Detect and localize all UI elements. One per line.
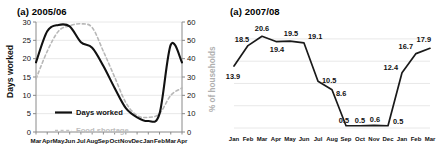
figure-container: (a) 2005/06 051015202530 0102030405060 M…: [0, 0, 445, 158]
svg-text:0.6: 0.6: [370, 115, 380, 124]
legend-left: Days worked Food shortage: [55, 108, 129, 135]
svg-text:Sep: Sep: [340, 136, 351, 142]
svg-text:Mar: Mar: [257, 136, 268, 142]
svg-text:30: 30: [23, 18, 31, 27]
legend-label-days-worked: Days worked: [76, 108, 123, 117]
y-axis-title-left: Days worked: [5, 45, 15, 98]
svg-text:19.1: 19.1: [308, 32, 322, 41]
svg-text:0: 0: [27, 128, 31, 137]
y-axis-ticks-left: 051015202530: [23, 18, 36, 137]
svg-text:50: 50: [187, 36, 195, 45]
svg-text:Apr: Apr: [177, 137, 188, 144]
svg-text:10: 10: [187, 109, 195, 118]
svg-text:Jan: Jan: [143, 137, 154, 144]
x-axis-months-right: JanFebMarAprMayJunJulAugSepOctNovDecJanF…: [229, 136, 436, 142]
svg-text:Jul: Jul: [314, 136, 323, 142]
svg-text:17.9: 17.9: [417, 35, 431, 44]
y2-axis-title-left: % of households: [208, 46, 217, 112]
svg-text:Mar: Mar: [165, 137, 177, 144]
svg-text:Jun: Jun: [64, 137, 75, 144]
svg-text:Jun: Jun: [299, 136, 310, 142]
svg-text:Mar: Mar: [425, 136, 436, 142]
svg-text:0.5: 0.5: [339, 116, 349, 125]
svg-text:Dec: Dec: [382, 136, 394, 142]
series-food-shortage: [36, 24, 182, 118]
legend-label-food-shortage: Food shortage: [76, 126, 129, 135]
svg-text:0.5: 0.5: [355, 116, 365, 125]
svg-text:20.6: 20.6: [255, 24, 269, 33]
svg-text:Jan: Jan: [397, 136, 408, 142]
svg-text:30: 30: [187, 73, 195, 82]
svg-text:19.4: 19.4: [270, 45, 285, 54]
svg-text:Aug: Aug: [326, 136, 338, 142]
svg-text:Oct: Oct: [109, 137, 119, 144]
svg-text:60: 60: [187, 18, 195, 27]
svg-text:40: 40: [187, 54, 195, 63]
svg-text:13.9: 13.9: [226, 72, 240, 81]
svg-text:May: May: [284, 136, 296, 142]
svg-text:Feb: Feb: [243, 136, 254, 142]
gridlines-left: [36, 22, 182, 114]
svg-text:0: 0: [187, 128, 191, 137]
svg-text:20: 20: [187, 91, 195, 100]
svg-text:10: 10: [23, 91, 31, 100]
svg-text:25: 25: [23, 36, 31, 45]
svg-text:5: 5: [27, 109, 31, 118]
svg-text:Mar: Mar: [30, 137, 42, 144]
svg-text:Feb: Feb: [154, 137, 165, 144]
svg-text:20: 20: [23, 54, 31, 63]
chart-svg-right: JanFebMarAprMayJunJulAugSepOctNovDecJanF…: [222, 0, 445, 158]
svg-text:19.5: 19.5: [284, 29, 298, 38]
svg-text:Aug: Aug: [86, 137, 98, 144]
svg-text:Feb: Feb: [411, 136, 422, 142]
svg-text:10.5: 10.5: [322, 76, 336, 85]
svg-text:Jul: Jul: [76, 137, 85, 144]
y2-axis-ticks-left: 0102030405060: [182, 18, 195, 137]
chart-svg-left: 051015202530 0102030405060 MarAprMayJunJ…: [0, 0, 222, 158]
chart-panel-2007-08: (a) 2007/08 JanFebMarAprMayJunJulAugSepO…: [222, 0, 445, 158]
svg-text:16.7: 16.7: [399, 42, 413, 51]
svg-text:Oct: Oct: [355, 136, 365, 142]
svg-text:Sep: Sep: [98, 137, 110, 144]
svg-text:0.5: 0.5: [393, 117, 403, 126]
svg-text:May: May: [52, 137, 65, 144]
svg-text:Apr: Apr: [271, 136, 282, 142]
svg-text:15: 15: [23, 73, 31, 82]
svg-text:8.6: 8.6: [336, 89, 346, 98]
svg-text:18.5: 18.5: [235, 35, 249, 44]
chart-panel-2005-06: (a) 2005/06 051015202530 0102030405060 M…: [0, 0, 222, 158]
svg-text:Dec: Dec: [131, 137, 143, 144]
svg-text:12.4: 12.4: [384, 63, 399, 72]
svg-text:Nov: Nov: [368, 136, 380, 142]
svg-text:Jan: Jan: [229, 136, 240, 142]
